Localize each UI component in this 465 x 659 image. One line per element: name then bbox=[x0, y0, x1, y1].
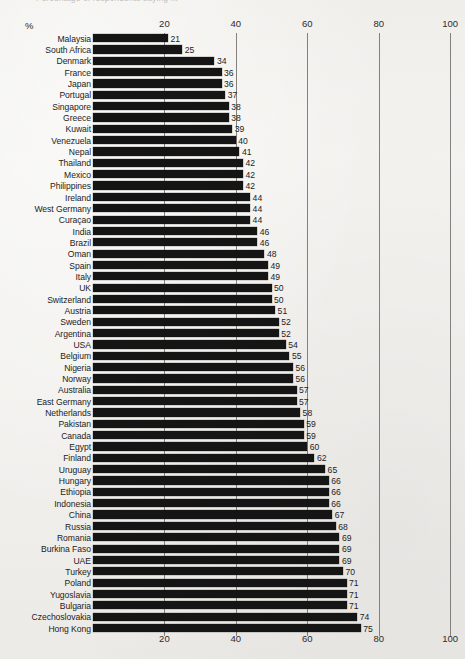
bar bbox=[93, 79, 222, 87]
chart-row: Burkina Faso69 bbox=[0, 544, 465, 555]
bar bbox=[93, 91, 225, 99]
chart-row: Oman48 bbox=[0, 249, 465, 260]
bar bbox=[93, 352, 289, 360]
bar-value-label: 41 bbox=[242, 147, 252, 157]
bar-value-label: 42 bbox=[245, 181, 255, 191]
bar bbox=[93, 454, 314, 462]
bar bbox=[93, 579, 347, 587]
chart-row: Hungary66 bbox=[0, 475, 465, 486]
category-label: Malaysia bbox=[57, 34, 91, 44]
category-label: Japan bbox=[68, 79, 91, 89]
chart-row: Yugoslavia71 bbox=[0, 589, 465, 600]
chart-row: UAE69 bbox=[0, 555, 465, 566]
bar-value-label: 36 bbox=[224, 68, 234, 78]
category-label: Czechoslovakia bbox=[32, 612, 92, 622]
category-label: Austria bbox=[65, 306, 91, 316]
category-label: Finland bbox=[63, 453, 91, 463]
bar bbox=[93, 397, 297, 405]
bar-value-label: 66 bbox=[331, 476, 341, 486]
bar-value-label: 37 bbox=[228, 90, 238, 100]
axis-tick-bottom-20: 20 bbox=[159, 633, 170, 644]
chart-row: Turkey70 bbox=[0, 566, 465, 577]
bar-value-label: 34 bbox=[217, 56, 227, 66]
chart-row: France36 bbox=[0, 67, 465, 78]
bar-value-label: 38 bbox=[231, 113, 241, 123]
bar bbox=[93, 431, 304, 439]
bar bbox=[93, 170, 243, 178]
bar-value-label: 40 bbox=[238, 136, 248, 146]
axis-tick-top-80: 80 bbox=[373, 18, 384, 29]
bar bbox=[93, 533, 339, 541]
chart-row: Norway56 bbox=[0, 373, 465, 384]
category-label: West Germany bbox=[34, 204, 91, 214]
category-label: Brazil bbox=[70, 238, 91, 248]
category-label: South Africa bbox=[45, 45, 91, 55]
category-label: Indonesia bbox=[54, 499, 91, 509]
bar bbox=[93, 624, 361, 632]
bar bbox=[93, 442, 307, 450]
bar bbox=[93, 45, 182, 53]
category-label: UAE bbox=[73, 556, 91, 566]
bar bbox=[93, 216, 250, 224]
chart-row: Greece38 bbox=[0, 112, 465, 123]
bar bbox=[93, 204, 250, 212]
bar-chart: % 2020404060608080100100Malaysia21South … bbox=[0, 0, 465, 659]
bar-value-label: 69 bbox=[342, 544, 352, 554]
category-label: Italy bbox=[75, 272, 91, 282]
category-label: Hungary bbox=[59, 476, 91, 486]
chart-row: Netherlands58 bbox=[0, 407, 465, 418]
bar bbox=[93, 147, 239, 155]
axis-tick-top-100: 100 bbox=[442, 18, 458, 29]
chart-row: Portugal37 bbox=[0, 90, 465, 101]
chart-row: Argentina52 bbox=[0, 328, 465, 339]
chart-row: Bulgaria71 bbox=[0, 600, 465, 611]
bar bbox=[93, 340, 286, 348]
bar-value-label: 48 bbox=[267, 249, 277, 259]
bar-value-label: 46 bbox=[260, 238, 270, 248]
bar-value-label: 75 bbox=[363, 624, 373, 634]
bar-value-label: 69 bbox=[342, 533, 352, 543]
bar bbox=[93, 374, 293, 382]
bar bbox=[93, 193, 250, 201]
category-label: Philippines bbox=[50, 181, 91, 191]
bar bbox=[93, 590, 347, 598]
bar-value-label: 46 bbox=[260, 227, 270, 237]
axis-tick-top-40: 40 bbox=[231, 18, 242, 29]
bar bbox=[93, 567, 343, 575]
axis-tick-bottom-40: 40 bbox=[231, 633, 242, 644]
category-label: East Germany bbox=[37, 397, 91, 407]
bar bbox=[93, 34, 168, 42]
bar-value-label: 51 bbox=[278, 306, 288, 316]
category-label: Thailand bbox=[58, 158, 91, 168]
category-label: Sweden bbox=[60, 317, 91, 327]
chart-row: Austria51 bbox=[0, 305, 465, 316]
bar-value-label: 55 bbox=[292, 351, 302, 361]
chart-row: Japan36 bbox=[0, 78, 465, 89]
chart-row: Italy49 bbox=[0, 271, 465, 282]
chart-row: Belgium55 bbox=[0, 351, 465, 362]
bar bbox=[93, 476, 329, 484]
bar bbox=[93, 136, 236, 144]
bar bbox=[93, 284, 272, 292]
bar-value-label: 50 bbox=[274, 283, 284, 293]
chart-row: Czechoslovakia74 bbox=[0, 612, 465, 623]
bar-value-label: 50 bbox=[274, 295, 284, 305]
category-label: Kuwait bbox=[66, 124, 92, 134]
category-label: Ethiopia bbox=[60, 487, 91, 497]
category-label: Hong Kong bbox=[48, 624, 91, 634]
bar-value-label: 21 bbox=[170, 34, 180, 44]
bar-value-label: 71 bbox=[349, 601, 359, 611]
bar bbox=[93, 318, 279, 326]
category-label: Portugal bbox=[59, 90, 91, 100]
bar-value-label: 39 bbox=[235, 124, 245, 134]
chart-row: Romania69 bbox=[0, 532, 465, 543]
category-label: Egypt bbox=[69, 442, 91, 452]
bar bbox=[93, 499, 329, 507]
bar bbox=[93, 556, 339, 564]
chart-row: Mexico42 bbox=[0, 169, 465, 180]
chart-row: Canada59 bbox=[0, 430, 465, 441]
category-label: Poland bbox=[65, 578, 91, 588]
chart-row: Nigeria56 bbox=[0, 362, 465, 373]
category-label: Oman bbox=[68, 249, 91, 259]
chart-row: Finland62 bbox=[0, 453, 465, 464]
